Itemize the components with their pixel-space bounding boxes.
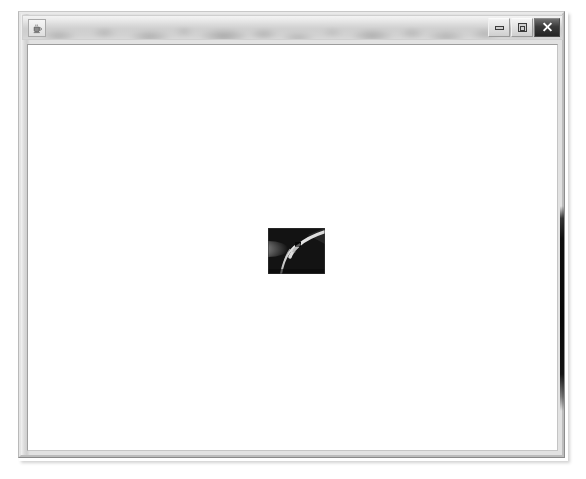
image-canvas[interactable] — [28, 45, 557, 450]
title-bar[interactable] — [22, 15, 563, 40]
application-window[interactable] — [18, 11, 565, 458]
minimize-button[interactable] — [488, 18, 510, 37]
content-area[interactable] — [27, 44, 558, 451]
minimize-icon — [495, 26, 504, 30]
displayed-image[interactable] — [268, 228, 325, 274]
maximize-button[interactable] — [511, 18, 533, 37]
right-edge-dark-band — [560, 206, 564, 411]
title-bar-texture — [22, 15, 563, 40]
java-coffee-cup-icon[interactable] — [28, 19, 46, 37]
window-controls[interactable] — [487, 18, 560, 37]
close-button[interactable] — [534, 18, 560, 37]
close-icon — [542, 22, 553, 33]
maximize-icon — [518, 23, 527, 32]
